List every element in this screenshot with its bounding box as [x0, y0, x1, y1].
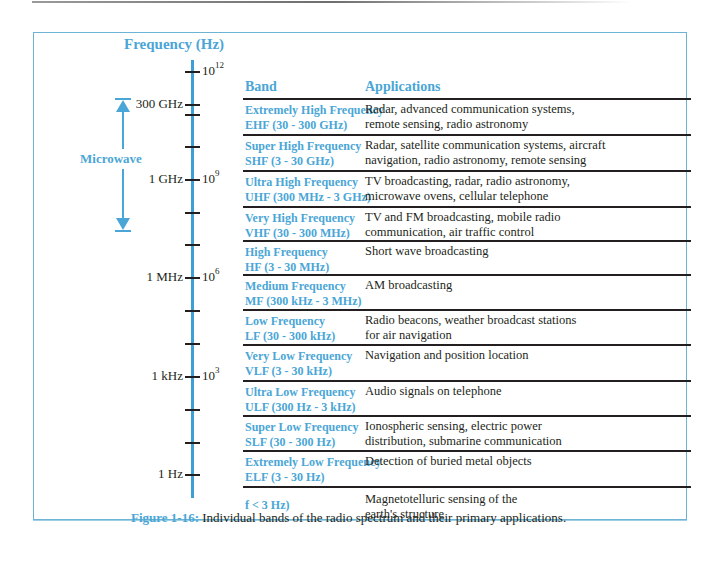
application-line: Radar, advanced communication systems, — [365, 102, 575, 117]
figure-caption: Figure 1-16: Individual bands of the rad… — [131, 510, 566, 526]
table-row: Very High FrequencyVHF (30 - 300 MHz)TV … — [243, 208, 691, 242]
applications-cell: Radar, satellite communication systems, … — [365, 138, 605, 168]
band-name: Extremely Low Frequency — [245, 455, 381, 470]
application-line: microwave ovens, cellular telephone — [365, 189, 570, 204]
power-exponent: 6 — [215, 266, 220, 276]
table-row: Very Low FrequencyVLF (3 - 30 kHz)Naviga… — [243, 346, 691, 382]
power-exponent: 12 — [215, 60, 224, 70]
power-exponent: 9 — [215, 168, 220, 178]
application-line: Audio signals on telephone — [365, 384, 501, 399]
application-line: Radio beacons, weather broadcast station… — [365, 313, 576, 328]
band-range: VLF (3 - 30 kHz) — [245, 364, 352, 379]
band-range: ULF (300 Hz - 3 kHz) — [245, 400, 356, 415]
band-range: HF (3 - 30 MHz) — [245, 260, 329, 275]
axis-tick — [185, 179, 200, 181]
band-cell: Extremely High FrequencyEHF (30 - 300 GH… — [245, 103, 384, 133]
band-cell: Very Low FrequencyVLF (3 - 30 kHz) — [245, 349, 352, 379]
band-cell: Super Low FrequencySLF (30 - 300 Hz) — [245, 420, 359, 450]
band-cell: Extremely Low FrequencyELF (3 - 30 Hz) — [245, 455, 381, 485]
table-row: Super High FrequencySHF (3 - 30 GHz)Rada… — [243, 136, 691, 172]
power-base: 10 — [202, 171, 215, 186]
axis-tick — [185, 104, 200, 106]
band-name: Low Frequency — [245, 314, 335, 329]
band-cell: Ultra Low FrequencyULF (300 Hz - 3 kHz) — [245, 385, 356, 415]
table-row: High FrequencyHF (3 - 30 MHz)Short wave … — [243, 242, 691, 276]
application-line: TV broadcasting, radar, radio astronomy, — [365, 174, 570, 189]
applications-cell: Radio beacons, weather broadcast station… — [365, 313, 576, 343]
band-cell: Ultra High FrequencyUHF (300 MHz - 3 GHz… — [245, 175, 371, 205]
table-row: Ultra Low FrequencyULF (300 Hz - 3 kHz)A… — [243, 382, 691, 417]
tick-label-unit: 300 GHz — [136, 96, 183, 112]
band-name: Super Low Frequency — [245, 420, 359, 435]
band-name: Very High Frequency — [245, 211, 355, 226]
axis-tick — [185, 277, 200, 279]
table-row: Extremely High FrequencyEHF (30 - 300 GH… — [243, 100, 691, 136]
application-line: Detection of buried metal objects — [365, 454, 532, 469]
applications-cell: Short wave broadcasting — [365, 244, 489, 259]
band-cell: Super High FrequencySHF (3 - 30 GHz) — [245, 139, 361, 169]
application-line: distribution, submarine communication — [365, 434, 562, 449]
applications-cell: TV broadcasting, radar, radio astronomy,… — [365, 174, 570, 204]
caption-text: Individual bands of the radio spectrum a… — [199, 510, 566, 525]
tick-label-unit: 1 GHz — [149, 171, 183, 187]
arrow-down-icon — [116, 218, 130, 230]
application-line: TV and FM broadcasting, mobile radio — [365, 210, 561, 225]
caption-label: Figure 1-16: — [131, 510, 199, 525]
band-name: Extremely High Frequency — [245, 103, 384, 118]
frequency-axis — [191, 60, 194, 498]
axis-tick — [185, 376, 200, 378]
applications-cell: TV and FM broadcasting, mobile radiocomm… — [365, 210, 561, 240]
band-range: UHF (300 MHz - 3 GHz) — [245, 190, 371, 205]
applications-cell: Audio signals on telephone — [365, 384, 501, 399]
table-header: Band Applications — [243, 79, 691, 100]
band-name: High Frequency — [245, 245, 329, 260]
top-divider — [32, 1, 632, 3]
band-range: SHF (3 - 30 GHz) — [245, 154, 361, 169]
applications-cell: Radar, advanced communication systems,re… — [365, 102, 575, 132]
band-name: Medium Frequency — [245, 279, 362, 294]
axis-tick — [185, 409, 200, 411]
table-row: Extremely Low FrequencyELF (3 - 30 Hz)De… — [243, 452, 691, 488]
axis-tick — [185, 343, 200, 345]
table-body: Extremely High FrequencyEHF (30 - 300 GH… — [243, 100, 691, 524]
applications-cell: AM broadcasting — [365, 278, 452, 293]
axis-tick — [185, 442, 200, 444]
application-line: communication, air traffic control — [365, 225, 561, 240]
tick-label-power: 103 — [202, 368, 220, 384]
microwave-label: Microwave — [80, 149, 142, 169]
table-row: Low FrequencyLF (30 - 300 kHz)Radio beac… — [243, 311, 691, 346]
power-exponent: 3 — [215, 365, 220, 375]
axis-title: Frequency (Hz) — [124, 36, 224, 53]
microwave-range-line — [122, 110, 124, 228]
band-range: ELF (3 - 30 Hz) — [245, 470, 381, 485]
band-range: SLF (30 - 300 Hz) — [245, 435, 359, 450]
tick-label-unit: 1 Hz — [158, 466, 183, 482]
power-base: 10 — [202, 269, 215, 284]
band-range: LF (30 - 300 kHz) — [245, 329, 335, 344]
table-row: Ultra High FrequencyUHF (300 MHz - 3 GHz… — [243, 172, 691, 208]
application-line: Ionospheric sensing, electric power — [365, 419, 562, 434]
microwave-bottom-cap — [115, 230, 131, 232]
band-range: MF (300 kHz - 3 MHz) — [245, 294, 362, 309]
application-line: Radar, satellite communication systems, … — [365, 138, 605, 153]
application-line: Magnetotelluric sensing of the — [365, 492, 517, 507]
application-line: AM broadcasting — [365, 278, 452, 293]
header-band: Band — [245, 79, 277, 95]
band-range: VHF (30 - 300 MHz) — [245, 226, 355, 241]
applications-cell: Detection of buried metal objects — [365, 454, 532, 469]
axis-tick — [185, 310, 200, 312]
tick-label-power: 1012 — [202, 63, 224, 79]
table-row: Medium FrequencyMF (300 kHz - 3 MHz)AM b… — [243, 276, 691, 311]
header-applications: Applications — [365, 79, 440, 95]
band-range: EHF (30 - 300 GHz) — [245, 118, 384, 133]
table-row: Super Low FrequencySLF (30 - 300 Hz)Iono… — [243, 417, 691, 452]
axis-tick — [185, 244, 200, 246]
band-name: Super High Frequency — [245, 139, 361, 154]
axis-tick — [185, 212, 200, 214]
axis-tick — [185, 474, 200, 476]
band-table: Band Applications Extremely High Frequen… — [243, 79, 691, 524]
application-line: Navigation and position location — [365, 348, 529, 363]
tick-label-power: 109 — [202, 171, 220, 187]
tick-label-unit: 1 MHz — [147, 269, 183, 285]
tick-label-power: 106 — [202, 269, 220, 285]
